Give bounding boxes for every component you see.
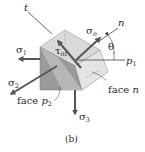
sigma2-label: σ2 [8,77,19,90]
sigma-n-label: σn [86,25,97,38]
sigma1-label: σ1 [16,44,27,57]
t-axis-line [28,12,52,34]
stress-element-diagram: t n σn θ p1 τnt σ1 σ2 σ3 face n face p2 … [0,0,145,152]
t-axis-label: t [24,2,29,13]
sigma3-label: σ3 [79,111,90,124]
p1-axis-label: p1 [126,55,137,68]
face-p2-label: face p2 [17,95,52,108]
face-n-label: face n [108,84,139,95]
theta-label: θ [108,41,114,52]
n-axis-label: n [118,17,124,28]
figure-caption: (b) [65,134,78,144]
